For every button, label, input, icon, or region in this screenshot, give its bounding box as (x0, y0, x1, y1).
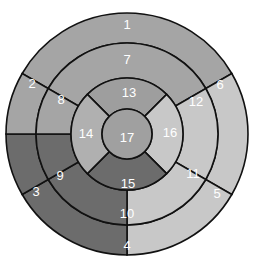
segment-label-13: 13 (122, 85, 136, 100)
segment-label-17: 17 (120, 130, 134, 145)
segment-label-1: 1 (123, 17, 130, 32)
segment-label-5: 5 (213, 186, 220, 201)
segment-label-7: 7 (123, 52, 130, 67)
segment-label-14: 14 (79, 126, 93, 141)
segment-label-15: 15 (121, 176, 135, 191)
segment-label-10: 10 (120, 206, 134, 221)
segment-label-11: 11 (186, 166, 200, 181)
segment-label-12: 12 (189, 94, 203, 109)
segment-label-2: 2 (28, 76, 35, 91)
segment-label-8: 8 (57, 92, 64, 107)
segment-label-9: 9 (56, 168, 63, 183)
segment-label-4: 4 (123, 238, 130, 253)
segment-label-3: 3 (32, 184, 39, 199)
segment-label-16: 16 (163, 125, 177, 140)
segment-label-6: 6 (216, 77, 223, 92)
bullseye-diagram: 1234567891011121314151617 (0, 0, 253, 269)
